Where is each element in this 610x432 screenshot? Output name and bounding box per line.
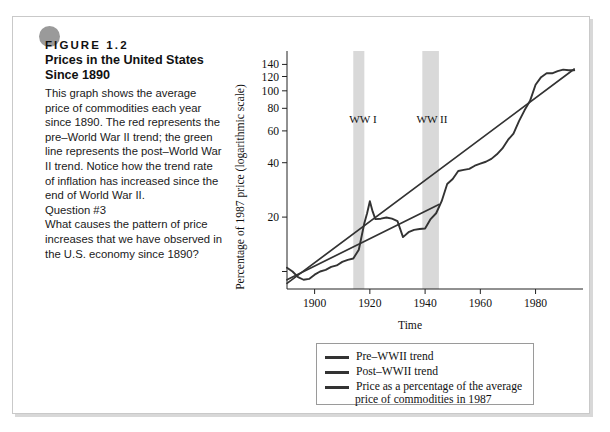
y-tick-label: 80 <box>267 102 279 115</box>
x-tick-label: 1900 <box>303 297 326 310</box>
chart-legend: Pre–WWII trend Post–WWII trend Price as … <box>316 343 534 405</box>
legend-swatch-icon <box>325 386 349 389</box>
y-tick-label: 20 <box>267 211 279 224</box>
ww1-shaded-band <box>353 51 364 289</box>
chart-region: 20406080100120140 19001920194019601980 W… <box>225 37 585 337</box>
figure-number-label: FIGURE 1.2 <box>45 39 223 51</box>
legend-label: Post–WWII trend <box>356 364 438 379</box>
figure-title: Prices in the United States Since 1890 <box>45 53 223 83</box>
x-tick-label: 1940 <box>414 297 437 310</box>
figure-caption-column: FIGURE 1.2 Prices in the United States S… <box>45 39 223 261</box>
x-tick-label: 1960 <box>469 297 492 310</box>
y-tick-label: 60 <box>267 125 279 138</box>
ww2-shaded-band <box>422 51 439 289</box>
figure-question-text: What causes the pattern of price increas… <box>45 217 223 261</box>
war-annotation-labels: WW IWW II <box>349 113 448 125</box>
war-label: WW II <box>416 113 447 125</box>
war-label: WW I <box>349 113 377 125</box>
y-tick-label: 140 <box>262 58 280 71</box>
figure-description: This graph shows the average price of co… <box>45 86 223 203</box>
y-tick-label: 40 <box>267 157 279 170</box>
figure-question-label: Question #3 <box>45 203 223 218</box>
x-tick-label: 1980 <box>524 297 547 310</box>
y-tick-label: 120 <box>262 71 280 84</box>
legend-label-continued: price of commodities in 1987 <box>317 392 533 407</box>
war-bands <box>353 51 439 289</box>
y-axis-title: Percentage of 1987 price (logarithmic sc… <box>234 84 247 290</box>
legend-item-post-wwii: Post–WWII trend <box>317 364 533 379</box>
x-axis-tick-labels: 19001920194019601980 <box>303 297 547 310</box>
y-axis-tick-labels: 20406080100120140 <box>262 58 280 224</box>
x-axis-title: Time <box>398 319 422 332</box>
legend-label: Pre–WWII trend <box>356 349 434 364</box>
price-index-line-chart: 20406080100120140 19001920194019601980 W… <box>225 37 585 337</box>
legend-swatch-icon <box>325 356 349 359</box>
legend-swatch-icon <box>325 371 349 374</box>
y-tick-label: 100 <box>262 85 280 98</box>
legend-item-pre-wwii: Pre–WWII trend <box>317 344 533 364</box>
figure-panel: FIGURE 1.2 Prices in the United States S… <box>12 16 590 414</box>
x-tick-label: 1920 <box>358 297 381 310</box>
